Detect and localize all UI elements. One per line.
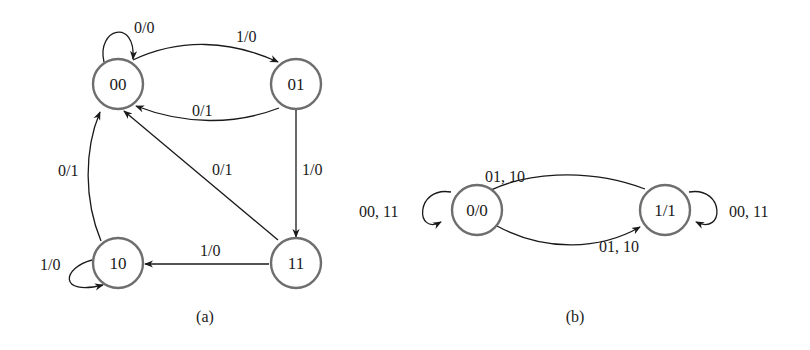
state-00: 00 (93, 59, 143, 109)
svg-text:0/1: 0/1 (58, 162, 78, 179)
transition-11-to-00: 01, 10 (477, 168, 645, 198)
state-11: 11 (271, 238, 321, 288)
svg-text:0/0: 0/0 (466, 201, 488, 220)
svg-text:01, 10: 01, 10 (599, 238, 639, 255)
diagram-b: 00, 11 01, 10 01, 10 00, 11 0/0 1/1 (b) (359, 168, 768, 326)
svg-text:00, 11: 00, 11 (729, 203, 768, 220)
state-10: 10 (93, 238, 143, 288)
transition-11-00: 0/1 (124, 111, 278, 240)
transition-00-to-11: 01, 10 (497, 226, 640, 255)
svg-text:1/0: 1/0 (40, 256, 60, 273)
svg-text:10: 10 (110, 254, 127, 273)
transition-01-00: 0/1 (136, 102, 279, 121)
svg-text:1/0: 1/0 (200, 242, 220, 259)
transition-01-11: 1/0 (296, 110, 322, 237)
transition-00-self: 00, 11 (359, 191, 451, 224)
svg-text:1/0: 1/0 (302, 161, 322, 178)
state-0-0: 0/0 (452, 185, 502, 235)
state-1-1: 1/1 (640, 185, 690, 235)
svg-text:1/0: 1/0 (236, 28, 256, 45)
svg-text:0/1: 0/1 (212, 161, 232, 178)
transition-00-01: 1/0 (133, 28, 278, 62)
svg-text:1/1: 1/1 (654, 201, 676, 220)
svg-text:0/1: 0/1 (192, 102, 212, 119)
transition-11-10: 1/0 (145, 242, 269, 264)
caption-b: (b) (566, 308, 585, 326)
svg-text:00, 11: 00, 11 (359, 203, 398, 220)
svg-text:01, 10: 01, 10 (485, 168, 525, 185)
svg-text:0/0: 0/0 (134, 19, 154, 36)
transition-11-self: 00, 11 (689, 191, 768, 224)
diagram-a: 0/0 1/0 0/1 1/0 0/1 1/0 0/1 1/0 (40, 19, 322, 326)
svg-text:00: 00 (110, 75, 127, 94)
svg-text:01: 01 (288, 75, 305, 94)
caption-a: (a) (196, 308, 214, 326)
svg-text:11: 11 (288, 254, 304, 273)
state-diagrams: 0/0 1/0 0/1 1/0 0/1 1/0 0/1 1/0 (0, 0, 810, 350)
transition-10-00: 0/1 (58, 112, 101, 241)
state-01: 01 (271, 59, 321, 109)
transition-00-00: 0/0 (103, 19, 155, 62)
